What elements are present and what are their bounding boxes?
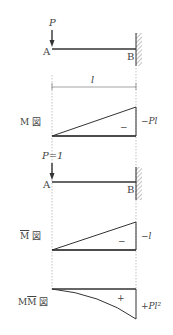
point-a-label-2: A	[43, 180, 50, 190]
unit-load-label: P=1	[42, 151, 63, 161]
mbar-diagram-sign: −	[118, 237, 126, 246]
m-diagram-end-value: −Pl	[141, 117, 157, 126]
point-b-label-2: B	[127, 185, 134, 195]
mmbar-diagram-sign: +	[117, 294, 125, 303]
point-b-label: B	[127, 52, 134, 62]
load-label-p: P	[49, 18, 56, 28]
mmbar-diagram-title: MM 図	[18, 298, 48, 307]
length-label: l	[91, 75, 94, 85]
m-diagram-title: M 図	[20, 118, 41, 127]
mmbar-diagram-end-value: +Pl²	[141, 302, 161, 311]
mbar-diagram-title: M 図	[20, 232, 41, 241]
point-a-label: A	[43, 47, 50, 57]
diagram-canvas	[0, 0, 173, 335]
m-diagram-sign: −	[120, 123, 128, 132]
mbar-diagram-end-value: −l	[141, 232, 151, 241]
